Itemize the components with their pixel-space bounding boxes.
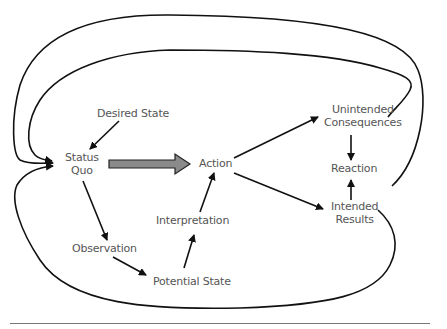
unintended-line2: Consequences [324,116,402,129]
intended-line1: Intended [331,200,378,213]
feedback-loop-diagram: Desired State Status Quo Action Observat… [0,0,447,329]
node-observation: Observation [72,242,137,255]
node-reaction: Reaction [331,162,377,175]
block-arrow [109,154,190,174]
status-quo-line1: Status [65,151,99,164]
node-action: Action [199,157,232,170]
status-quo-line2: Quo [65,164,99,177]
unintended-line1: Unintended [324,103,402,116]
node-interpretation: Interpretation [156,214,229,227]
bottom-rule [10,323,430,324]
node-desired-state: Desired State [97,107,169,120]
intended-line2: Results [331,213,378,226]
node-status-quo: Status Quo [65,151,99,177]
node-intended-results: Intended Results [331,200,378,226]
node-potential-state: Potential State [153,275,231,288]
node-unintended-consequences: Unintended Consequences [324,103,402,129]
